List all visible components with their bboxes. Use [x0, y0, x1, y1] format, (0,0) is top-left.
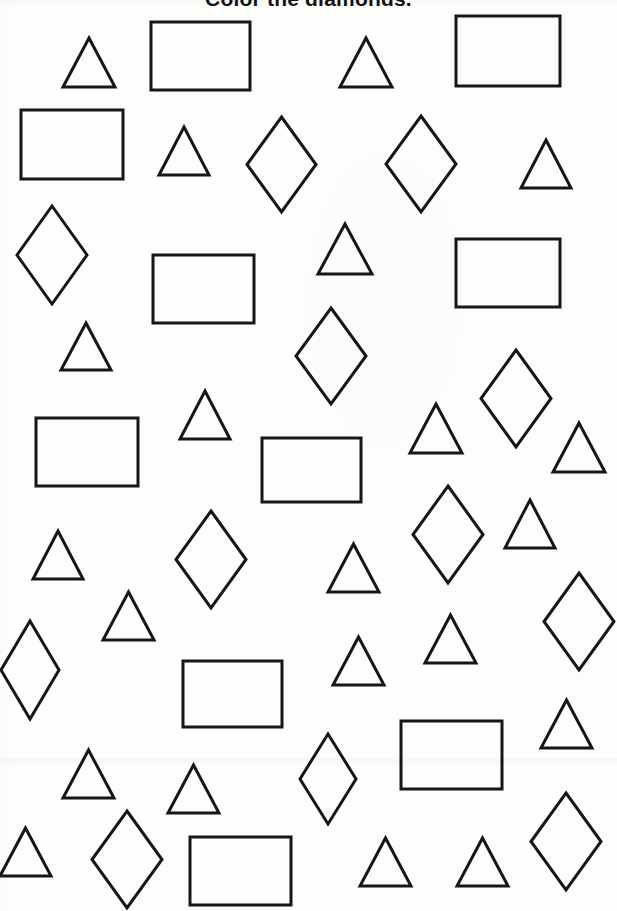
- triangle-outline: [318, 224, 372, 274]
- rectangle-7[interactable]: [259, 435, 364, 505]
- triangle-6[interactable]: [58, 320, 114, 373]
- triangle-outline: [63, 38, 115, 87]
- triangle-10[interactable]: [502, 497, 558, 551]
- triangle-16[interactable]: [538, 697, 595, 751]
- rectangle-outline: [190, 837, 291, 905]
- rectangle-outline: [21, 110, 123, 179]
- triangle-17[interactable]: [60, 747, 117, 801]
- triangle-outline: [410, 404, 462, 453]
- diamond-outline: [481, 350, 551, 447]
- triangle-outline: [159, 127, 209, 175]
- diamond-outline: [300, 734, 356, 824]
- rectangle-10[interactable]: [187, 834, 294, 908]
- diamond-7[interactable]: [410, 483, 486, 586]
- triangle-18[interactable]: [165, 762, 222, 816]
- diamond-1[interactable]: [244, 114, 319, 215]
- triangle-outline: [521, 140, 571, 188]
- triangle-14[interactable]: [422, 612, 479, 666]
- rectangle-outline: [456, 16, 560, 86]
- triangle-outline: [333, 637, 384, 685]
- triangle-4[interactable]: [518, 137, 574, 191]
- diamond-2[interactable]: [383, 113, 459, 215]
- triangle-outline: [541, 700, 592, 748]
- worksheet-title-container: Color the diamonds.: [0, 0, 617, 10]
- triangle-19[interactable]: [0, 825, 54, 879]
- triangle-2[interactable]: [337, 35, 395, 90]
- triangle-12[interactable]: [325, 541, 382, 595]
- triangle-outline: [61, 323, 111, 370]
- triangle-outline: [340, 38, 392, 87]
- diamond-outline: [17, 206, 87, 304]
- diamond-12[interactable]: [89, 808, 165, 911]
- worksheet-page: Color the diamonds.: [0, 0, 617, 911]
- diamond-4[interactable]: [293, 305, 369, 407]
- triangle-outline: [0, 828, 51, 876]
- rectangle-3[interactable]: [18, 107, 126, 182]
- triangle-outline: [33, 531, 83, 579]
- rectangle-outline: [151, 22, 250, 90]
- triangle-20[interactable]: [357, 835, 414, 889]
- triangle-outline: [505, 500, 555, 548]
- diamond-8[interactable]: [541, 570, 617, 673]
- triangle-outline: [425, 615, 476, 663]
- diamond-outline: [544, 573, 614, 670]
- diamond-10[interactable]: [297, 731, 359, 827]
- triangle-outline: [328, 544, 379, 592]
- rectangle-9[interactable]: [398, 718, 505, 792]
- triangle-15[interactable]: [330, 634, 387, 688]
- triangle-outline: [63, 750, 114, 798]
- diamond-outline: [531, 793, 601, 890]
- rectangle-8[interactable]: [180, 658, 285, 730]
- triangle-3[interactable]: [156, 124, 212, 178]
- rectangle-4[interactable]: [150, 252, 257, 326]
- diamond-outline: [92, 811, 162, 908]
- rectangle-2[interactable]: [453, 13, 563, 89]
- rectangle-outline: [183, 661, 282, 727]
- triangle-21[interactable]: [454, 835, 511, 889]
- diamond-5[interactable]: [478, 347, 554, 450]
- triangle-outline: [103, 592, 154, 640]
- rectangle-outline: [401, 721, 502, 789]
- page-title: Color the diamonds.: [0, 0, 617, 10]
- diamond-3[interactable]: [14, 203, 90, 307]
- triangle-11[interactable]: [30, 528, 86, 582]
- triangle-outline: [360, 838, 411, 886]
- diamond-outline: [247, 117, 316, 212]
- diamond-outline: [413, 486, 483, 583]
- rectangle-outline: [36, 418, 138, 486]
- rectangle-6[interactable]: [33, 415, 141, 489]
- rectangle-1[interactable]: [148, 19, 253, 93]
- triangle-outline: [553, 423, 605, 472]
- diamond-outline: [296, 308, 366, 404]
- diamond-outline: [176, 511, 246, 608]
- diamond-6[interactable]: [173, 508, 249, 611]
- triangle-outline: [168, 765, 219, 813]
- triangle-outline: [457, 838, 508, 886]
- rectangle-outline: [262, 438, 361, 502]
- diamond-9[interactable]: [0, 618, 62, 722]
- triangle-1[interactable]: [60, 35, 118, 90]
- triangle-13[interactable]: [100, 589, 157, 643]
- triangle-5[interactable]: [315, 221, 375, 277]
- rectangle-outline: [456, 239, 560, 307]
- diamond-outline: [386, 116, 456, 212]
- triangle-7[interactable]: [177, 388, 233, 442]
- diamond-11[interactable]: [528, 790, 604, 893]
- triangle-8[interactable]: [407, 401, 465, 456]
- rectangle-5[interactable]: [453, 236, 563, 310]
- triangle-9[interactable]: [550, 420, 608, 475]
- rectangle-outline: [153, 255, 254, 323]
- triangle-outline: [180, 391, 230, 439]
- diamond-outline: [1, 621, 59, 719]
